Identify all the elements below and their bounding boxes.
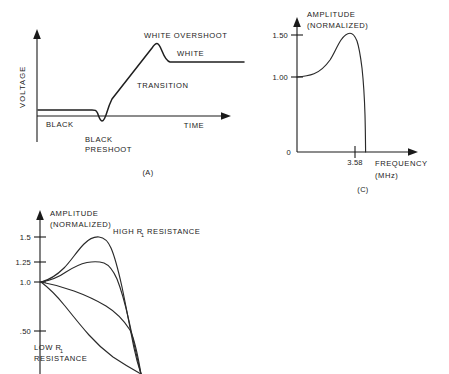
figure-c-caption: (C): [357, 185, 368, 194]
figure-c-frequency-response: AMPLITUDE (NORMALIZED) 1.50 1.00 0 3.58 …: [258, 0, 449, 200]
figure-a-x-axis: [37, 112, 231, 120]
figure-a-annotation-preshoot-line1: BLACK: [85, 135, 113, 144]
figure-b-high-r1-prefix: HIGH R: [113, 227, 143, 236]
figure-b-y-axis-label-line1: AMPLITUDE: [50, 209, 98, 218]
figure-c-y-axis: [293, 17, 301, 152]
figure-b-high-r1-suffix: RESISTANCE: [147, 227, 200, 236]
figure-c-xtick-label-358: 3.58: [347, 158, 363, 167]
figure-a-x-axis-label: TIME: [184, 121, 204, 130]
figure-c-y-axis-label-line2: (NORMALIZED): [307, 21, 368, 30]
figure-c-y-axis-label-line1: AMPLITUDE: [307, 10, 355, 19]
figure-b-y-axis-label-line2: (NORMALIZED): [50, 220, 111, 229]
figure-c-ytick-label-100: 1.00: [272, 73, 288, 82]
figure-b-svg: AMPLITUDE (NORMALIZED) 1.5 1.25 1.0 .50 …: [0, 198, 260, 374]
figure-a-waveform: VOLTAGE TIME BLACK BLACK PRESHOOT TRANSI…: [0, 0, 255, 190]
figure-c-ytick-label-0: 0: [287, 148, 291, 157]
figure-c-svg: AMPLITUDE (NORMALIZED) 1.50 1.00 0 3.58 …: [258, 0, 449, 200]
figure-c-ytick-label-150: 1.50: [272, 31, 288, 40]
figure-a-annotation-white: WHITE: [177, 49, 204, 58]
figure-b-ytick-label-10: 1.0: [20, 278, 31, 287]
figure-b-low-r1-suffix: RESISTANCE: [34, 354, 87, 363]
figure-b-resistance-family: AMPLITUDE (NORMALIZED) 1.5 1.25 1.0 .50 …: [0, 198, 260, 374]
figure-b-ytick-label-050: .50: [20, 327, 31, 336]
figure-b-annotation-high-r1: HIGH R 1 RESISTANCE: [113, 227, 200, 238]
figure-a-y-axis: [33, 29, 41, 142]
figure-a-svg: VOLTAGE TIME BLACK BLACK PRESHOOT TRANSI…: [0, 0, 255, 190]
figure-b-ytick-label-125: 1.25: [15, 258, 31, 267]
figure-a-annotation-black: BLACK: [46, 120, 74, 129]
figure-b-ytick-label-15: 1.5: [20, 233, 31, 242]
figure-b-annotation-low-r1: LOW R 1 RESISTANCE: [34, 343, 87, 363]
figure-a-caption: (A): [142, 168, 153, 177]
figure-c-response-curve: [297, 33, 366, 152]
figure-b-high-r1-subscript: 1: [141, 232, 144, 238]
figure-a-annotation-preshoot-line2: PRESHOOT: [85, 145, 132, 154]
figure-c-x-axis-label-line1: FREQUENCY: [375, 159, 428, 168]
figure-c-x-axis-label-line2: (MHz): [375, 171, 398, 180]
figure-a-annotation-white-overshoot: WHITE OVERSHOOT: [144, 31, 227, 40]
figure-b-low-r1-prefix: LOW R: [34, 343, 62, 352]
figure-c-x-axis: [297, 148, 418, 156]
figure-a-annotation-transition: TRANSITION: [137, 81, 189, 90]
figure-a-y-axis-label: VOLTAGE: [18, 66, 27, 108]
